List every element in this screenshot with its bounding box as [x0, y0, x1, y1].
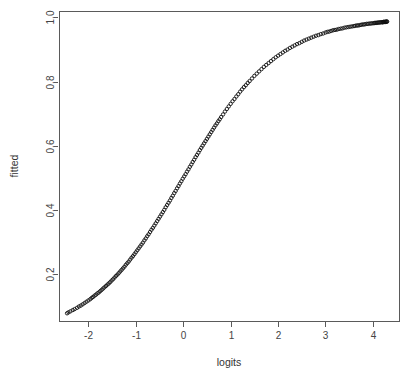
plot-background: [0, 0, 419, 384]
x-tick-label: 0: [181, 330, 187, 341]
y-tick-label: 1.0: [45, 10, 56, 24]
x-tick-label: 4: [371, 330, 377, 341]
y-tick-label: 0.2: [45, 267, 56, 281]
x-axis-title: logits: [217, 356, 242, 368]
x-tick-label: 1: [229, 330, 235, 341]
logistic-scatter-plot: -2-101234 0.20.40.60.81.0 logits fitted: [0, 0, 419, 384]
x-tick-label: 2: [276, 330, 282, 341]
x-tick-label: -2: [84, 330, 93, 341]
x-tick-label: 3: [323, 330, 329, 341]
y-axis-title: fitted: [8, 154, 20, 177]
y-tick-label: 0.8: [45, 75, 56, 89]
y-tick-label: 0.6: [45, 139, 56, 153]
chart-page: -2-101234 0.20.40.60.81.0 logits fitted: [0, 0, 419, 384]
x-tick-label: -1: [132, 330, 141, 341]
y-tick-label: 0.4: [45, 203, 56, 217]
